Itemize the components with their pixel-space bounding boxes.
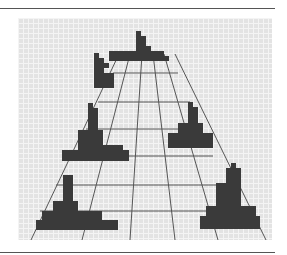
top-rule	[0, 8, 275, 9]
pixel-figures	[36, 31, 260, 230]
perspective-grid-figures	[18, 18, 272, 240]
pixel-art-panel	[18, 18, 272, 240]
bottom-rule	[0, 252, 275, 253]
